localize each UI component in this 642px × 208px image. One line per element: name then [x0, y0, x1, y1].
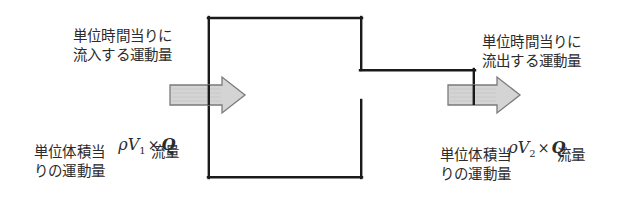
inflow-momentum-label: 単位時間当りに 流入する運動量 [73, 27, 172, 65]
outflow-arrow-shape [448, 77, 520, 113]
formula-right-times: × [536, 140, 552, 156]
inflow-arrow [170, 77, 245, 113]
formula-left-subscript: 1 [139, 145, 145, 156]
duct-outline [208, 17, 475, 178]
outflow-momentum-label: 単位時間当りに 流出する運動量 [482, 33, 581, 71]
formula-right-v: V [518, 138, 530, 157]
formula-right-subscript: 2 [529, 148, 535, 159]
momentum-flux-diagram: 単位時間当りに 流入する運動量 単位時間当りに 流出する運動量 ρV1×Q ρV… [0, 0, 642, 208]
formula-left-rho: ρ [118, 135, 127, 154]
inflow-arrow-shape [170, 77, 245, 113]
right-unit-volume-caption: 単位体積当 りの運動量 [440, 146, 511, 184]
outflow-arrow [448, 77, 520, 113]
right-flow-rate-caption: 流量 [557, 146, 585, 165]
left-flow-rate-caption: 流量 [151, 143, 179, 162]
left-unit-volume-caption: 単位体積当 りの運動量 [34, 143, 105, 181]
formula-left-v: V [128, 135, 140, 154]
